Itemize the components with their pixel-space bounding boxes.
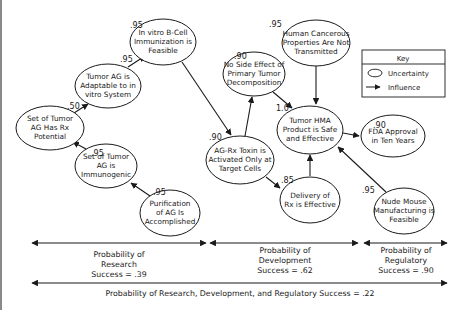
regulatory-label: Regulatory [385, 256, 428, 265]
node-label: of AG Is [156, 208, 184, 217]
phase-labels: Probability of Research Success = .39 Pr… [91, 246, 433, 298]
prob-toxin: .90 [209, 133, 222, 142]
key-uncertainty-label: Uncertainty [388, 70, 429, 78]
node-label: Delivery of [290, 191, 330, 200]
development-label: Development [259, 256, 312, 265]
node-label: Target Cells [218, 164, 262, 173]
prob-immunogenic: .95 [91, 149, 104, 158]
prob-human-cancerous: .95 [269, 20, 282, 29]
node-label: Activated Only at [208, 155, 271, 164]
node-label: Potential [34, 132, 66, 141]
prob-no-side-effect: .90 [234, 52, 247, 61]
node-label: and Effective [286, 134, 334, 143]
prob-fda: .90 [373, 121, 386, 130]
node-label: Product is Safe [283, 125, 338, 134]
node-label: Tumor AG is [85, 72, 130, 81]
node-label: No Side Effect of [224, 60, 285, 69]
node-label: Transmitted [293, 47, 337, 56]
node-label: vitro System [85, 90, 131, 99]
uncertainty-ellipse-icon [368, 69, 382, 77]
node-label: Immunogenic [81, 170, 131, 179]
prob-rx-potential: .50 [67, 102, 80, 111]
key-legend: Key Uncertainty Influence [362, 50, 445, 97]
regulatory-label: Success = .90 [378, 266, 433, 275]
node-label: Manufacturing is [374, 206, 435, 215]
node-label: Feasible [389, 215, 419, 224]
edge-purification-to-immunogenic [131, 183, 150, 196]
node-label: Feasible [148, 46, 178, 55]
prob-delivery: .85 [281, 176, 294, 185]
edge-hma-to-fda [343, 133, 359, 136]
node-label: Set of Tumor [27, 114, 73, 123]
node-label: Adaptable to in [80, 81, 136, 90]
node-label: Human Cancerous [282, 29, 349, 38]
prob-bcell: .95 [130, 21, 143, 30]
edge-toxin-to-delivery [266, 177, 280, 188]
node-label: in Ten Years [372, 136, 415, 145]
overall-label: Probability of Research, Development, an… [105, 289, 374, 298]
influence-diagram: Set of Tumor AG Has Rx Potential Tumor A… [0, 0, 465, 310]
node-label: AG-Rx Toxin is [214, 146, 266, 155]
research-label: Research [101, 260, 137, 269]
node-label: Decomposition [227, 78, 282, 87]
node-label: Set of Tumor [83, 152, 129, 161]
node-label: Accomplished [145, 217, 196, 226]
node-label: Rx is Effective [284, 200, 336, 209]
node-label: In vitro B-Cell [138, 28, 187, 37]
node-label: AG is [97, 161, 116, 170]
node-label: Properties Are Not [283, 38, 350, 47]
key-title: Key [397, 55, 410, 63]
research-label: Success = .39 [91, 270, 146, 279]
prob-nude-mouse: .95 [362, 186, 375, 195]
prob-hma-safe: 1.0 [276, 104, 289, 113]
development-label: Probability of [259, 246, 310, 255]
node-label: Nude Mouse [381, 197, 427, 206]
prob-purification: .95 [153, 188, 166, 197]
development-label: Success = .62 [257, 266, 312, 275]
edge-toxin-to-no-side-effect [245, 97, 252, 136]
key-influence-label: Influence [388, 84, 420, 92]
prob-adaptable: .95 [120, 55, 133, 64]
regulatory-label: Probability of [380, 246, 431, 255]
research-label: Probability of [93, 250, 144, 259]
node-label: Immunization is [134, 37, 192, 46]
node-label: Primary Tumor [227, 69, 280, 78]
node-label: Tumor HMA [288, 116, 331, 125]
node-label: AG Has Rx [31, 123, 70, 132]
node-label: Purification [150, 199, 191, 208]
